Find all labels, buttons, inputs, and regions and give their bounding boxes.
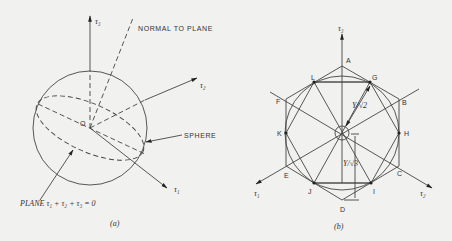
figure-b: τ₃ τ₁ τ₂ Y/√2 Y/√3 A B C D E F G H xyxy=(254,24,432,231)
normal-label: NORMAL TO PLANE xyxy=(138,25,213,32)
sqrt2-label: Y/√2 xyxy=(352,101,367,110)
plane-diameter xyxy=(38,104,145,154)
label-J: J xyxy=(308,188,312,195)
origin-label: O xyxy=(80,120,86,127)
label-H: H xyxy=(404,130,410,137)
tau1-label: τ₁ xyxy=(174,185,180,194)
label-C: C xyxy=(397,170,403,177)
tau3-label: τ₃ xyxy=(95,17,101,26)
caption-b: (b) xyxy=(334,222,344,231)
plane-label: PLANE τ₁ + τ₂ + τ₃ = 0 xyxy=(19,199,96,208)
tau2-axis-b xyxy=(270,92,432,188)
label-D: D xyxy=(340,206,346,213)
label-I: I xyxy=(373,188,376,195)
sphere-pointer xyxy=(146,135,182,142)
label-F: F xyxy=(276,98,281,105)
tau1-label-b: τ₁ xyxy=(254,189,260,198)
figure-a: τ₃ NORMAL TO PLANE τ₂ τ₁ O SPHERE PLANE … xyxy=(19,16,216,228)
tau3-label-b: τ₃ xyxy=(338,24,344,33)
tau2-axis-dashed xyxy=(90,100,145,128)
label-A: A xyxy=(346,57,351,64)
sqrt3-label: Y/√3 xyxy=(343,159,358,168)
label-G: G xyxy=(372,74,378,81)
tau2-label-b: τ₂ xyxy=(420,189,426,198)
label-L: L xyxy=(311,74,316,81)
label-K: K xyxy=(277,130,282,137)
stress-space-diagram: τ₃ NORMAL TO PLANE τ₂ τ₁ O SPHERE PLANE … xyxy=(0,0,452,241)
normal-line xyxy=(90,18,133,128)
tau1-axis xyxy=(90,128,167,188)
tau2-label: τ₂ xyxy=(200,81,206,90)
caption-a: (a) xyxy=(110,219,120,228)
label-B: B xyxy=(402,99,407,106)
plane-pointer xyxy=(40,150,73,200)
sphere-label: SPHERE xyxy=(184,132,216,139)
label-E: E xyxy=(284,172,289,179)
tau2-axis xyxy=(145,78,197,100)
